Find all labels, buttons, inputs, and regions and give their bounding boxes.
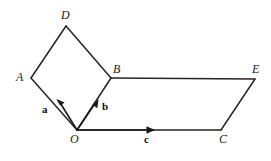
edge-B-E — [111, 78, 255, 79]
vertex-label-C: C — [219, 133, 227, 145]
vector-a-shaft — [59, 101, 77, 130]
vector-diagram-figure: A B C D E O a b c — [0, 0, 271, 161]
vector-a-arrowhead — [56, 99, 64, 106]
vertex-label-B: B — [113, 63, 120, 75]
vector-label-b: b — [102, 101, 108, 112]
vector-a-arrow — [56, 99, 77, 130]
vector-b-arrow — [77, 99, 99, 130]
geometry-canvas — [0, 0, 271, 161]
edge-E-C — [221, 79, 255, 130]
vertex-label-O: O — [70, 133, 79, 145]
edges-group — [31, 26, 255, 130]
edge-A-D — [31, 26, 66, 78]
edge-D-B — [66, 26, 111, 78]
vertex-label-E: E — [252, 63, 259, 75]
vector-label-a: a — [42, 104, 48, 115]
edge-A-O — [31, 78, 77, 130]
vertex-label-A: A — [16, 71, 23, 83]
vector-label-c: c — [144, 134, 149, 145]
vector-b-shaft — [77, 102, 96, 130]
vertex-label-D: D — [61, 9, 70, 21]
